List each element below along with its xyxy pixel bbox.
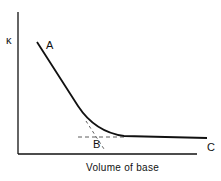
titration-diagram: κ A B C Volume of base	[0, 0, 221, 181]
point-a-label: A	[46, 40, 53, 51]
point-b-label: B	[93, 139, 100, 150]
y-axis-label: κ	[6, 35, 12, 46]
diagram-canvas	[0, 0, 221, 181]
point-c-label: C	[207, 142, 215, 153]
conductance-curve	[37, 42, 207, 138]
x-axis-label: Volume of base	[86, 163, 159, 173]
